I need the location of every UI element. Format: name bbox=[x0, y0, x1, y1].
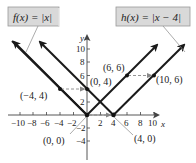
x-tick-8: 8 bbox=[138, 118, 143, 128]
y-tick-10: 10 bbox=[76, 44, 86, 54]
label-4-0: (4, 0) bbox=[134, 133, 156, 145]
y-tick-6: 6 bbox=[80, 71, 85, 81]
y-tick-m2: −2 bbox=[76, 123, 86, 133]
svg-text:h(x) = |x − 4|: h(x) = |x − 4| bbox=[121, 11, 181, 24]
y-tick-8: 8 bbox=[80, 57, 85, 67]
label-0-0: (0, 0) bbox=[43, 135, 65, 147]
x-axis-label: x bbox=[160, 119, 165, 129]
y-axis: y 10 8 6 2 −2 −4 bbox=[76, 33, 90, 160]
svg-text:f(x) = |x|: f(x) = |x| bbox=[13, 11, 52, 24]
label-6-6: (6, 6) bbox=[103, 62, 125, 74]
x-tick-4: 4 bbox=[111, 118, 116, 128]
y-tick-2: 2 bbox=[80, 97, 85, 107]
label-10-6: (10, 6) bbox=[156, 74, 183, 86]
x-tick-m4: −4 bbox=[54, 118, 64, 128]
legend-h: h(x) = |x − 4| bbox=[116, 7, 190, 52]
point-6-6 bbox=[125, 74, 129, 78]
label-0-4: (0, 4) bbox=[90, 76, 112, 88]
point-0-0 bbox=[85, 113, 90, 118]
x-tick-2: 2 bbox=[98, 118, 103, 128]
point-4-0 bbox=[111, 113, 116, 118]
label-m4-4: (−4, 4) bbox=[20, 90, 47, 102]
y-axis-label: y bbox=[79, 33, 84, 43]
x-tick-6: 6 bbox=[124, 118, 129, 128]
y-tick-m4: −4 bbox=[76, 136, 86, 146]
x-tick-m10: −10 bbox=[11, 118, 26, 128]
x-tick-m8: −8 bbox=[27, 118, 37, 128]
x-tick-m6: −6 bbox=[40, 118, 50, 128]
x-tick-10: 10 bbox=[148, 118, 158, 128]
point-0-4 bbox=[85, 87, 89, 91]
graph-canvas: −10 −8 −6 −4 −2 2 4 6 8 10 x y 10 8 6 2 … bbox=[0, 0, 196, 163]
point-m4-4 bbox=[58, 87, 62, 91]
